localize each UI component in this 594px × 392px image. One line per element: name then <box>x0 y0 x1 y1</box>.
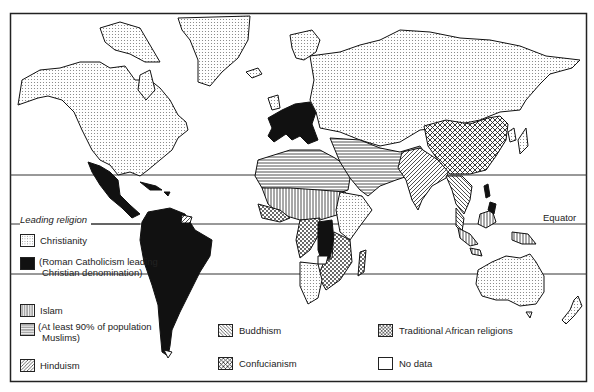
christianity-swatch <box>20 234 35 247</box>
islam-swatch <box>20 304 35 317</box>
legend-hinduism-label: Hinduism <box>40 360 80 371</box>
traditional-african-swatch <box>378 324 393 337</box>
buddhism-swatch <box>218 324 233 337</box>
no-data-swatch <box>378 357 393 370</box>
roman-catholicism-swatch <box>20 257 35 270</box>
legend-roman-catholicism-line1: (Roman Catholicism leading <box>39 256 158 267</box>
hinduism-swatch <box>20 359 35 372</box>
legend-buddhism-label: Buddhism <box>239 325 281 336</box>
legend-roman-catholicism-line2: Christian denomination) <box>42 267 142 278</box>
legend-confucianism-label: Confucianism <box>239 358 297 369</box>
legend-christianity-label: Christianity <box>40 235 87 246</box>
legend-traditional-african-label: Traditional African religions <box>399 325 513 336</box>
legend-islam-90-line2: Muslims) <box>42 332 80 343</box>
legend-no-data-label: No data <box>399 358 432 369</box>
islam-90-swatch <box>20 323 35 336</box>
confucianism-swatch <box>218 357 233 370</box>
legend-islam-90-line1: (At least 90% of population <box>38 321 152 332</box>
equator-label: Equator <box>543 212 576 223</box>
legend-heading: Leading religion <box>20 214 91 225</box>
legend-islam-label: Islam <box>40 305 63 316</box>
